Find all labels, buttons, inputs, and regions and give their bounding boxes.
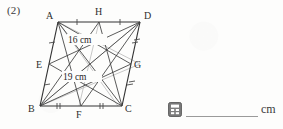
answer-row: cm bbox=[168, 99, 280, 125]
vertex-label-E: E bbox=[36, 59, 42, 70]
vertex-label-G: G bbox=[134, 59, 141, 70]
vertex-label-D: D bbox=[144, 10, 151, 21]
geometry-figure: A D B C E H G F 16 cm 19 cm bbox=[22, 2, 162, 127]
answer-unit-label: cm bbox=[261, 103, 276, 115]
worksheet-page: (2) bbox=[0, 0, 283, 129]
vertex-label-B: B bbox=[28, 103, 35, 114]
lower-length-label: 19 cm bbox=[63, 72, 87, 82]
problem-number: (2) bbox=[7, 5, 20, 16]
vertex-label-C: C bbox=[125, 103, 132, 114]
vertex-label-H: H bbox=[95, 6, 102, 17]
calculator-icon[interactable] bbox=[168, 102, 182, 117]
answer-input-line[interactable] bbox=[186, 116, 258, 117]
vertex-label-A: A bbox=[46, 10, 54, 21]
upper-length-label: 16 cm bbox=[68, 35, 92, 45]
vertex-label-F: F bbox=[76, 109, 82, 120]
